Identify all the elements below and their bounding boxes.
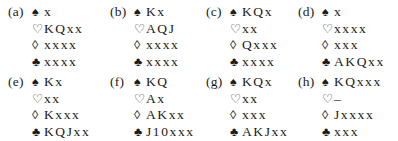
hearts-row: ♡ KQxx [8,21,83,38]
heart-icon: ♡ [134,92,146,108]
spades-row: (c) ♠ KQx [206,4,278,21]
heart-icon: ♡ [32,22,44,38]
diamond-icon: ◊ [322,108,334,124]
club-icon: ♣ [322,55,334,71]
hearts-holding: AQJ [146,21,176,37]
hand-e: (e) ♠ Kx ♡ xx ◊ Kxxx ♣ KQJxx [8,74,90,140]
spades-row: (e) ♠ Kx [8,74,90,91]
clubs-holding: KQJxx [44,124,90,140]
club-icon: ♣ [230,125,242,141]
diamonds-row: ◊ xxx [298,37,385,54]
hand-label: (b) [110,4,134,20]
club-icon: ♣ [32,125,44,141]
diamonds-row: ◊ Kxxx [8,107,90,124]
club-icon: ♣ [322,125,334,141]
diamonds-holding: Kxxx [44,107,80,123]
spades-row: (a) ♠ x [8,4,83,21]
spades-row: (h) ♠ KQxxx [298,74,382,91]
heart-icon: ♡ [32,92,44,108]
diamonds-holding: xxxx [146,37,179,53]
clubs-holding: xxxx [242,54,275,70]
spade-icon: ♠ [322,75,334,91]
hand-a: (a) ♠ x ♡ KQxx ◊ xxxx ♣ xxxx [8,4,83,70]
diamonds-row: ◊ xxxx [110,37,179,54]
club-icon: ♣ [230,55,242,71]
diamonds-holding: Qxxx [242,37,278,53]
diamond-icon: ◊ [134,108,146,124]
hand-d: (d) ♠ x ♡ xxxx ◊ xxx ♣ AKQxx [298,4,385,70]
clubs-holding: xxx [334,124,359,140]
clubs-holding: J10xxx [146,124,195,140]
clubs-row: ♣ AKQxx [298,54,385,71]
hearts-holding: xx [242,21,259,37]
spade-icon: ♠ [230,5,242,21]
clubs-row: ♣ KQJxx [8,124,90,141]
hearts-row: ♡ xxxx [298,21,385,38]
hand-label: (e) [8,74,32,90]
heart-icon: ♡ [230,22,242,38]
diamonds-holding: Jxxxx [334,107,374,123]
diamonds-holding: xxx [334,37,359,53]
clubs-row: ♣ xxxx [206,54,278,71]
spades-row: (f) ♠ KQ [110,74,195,91]
spades-holding: x [44,4,52,20]
spades-row: (d) ♠ x [298,4,385,21]
spade-icon: ♠ [32,5,44,21]
hand-label: (g) [206,74,230,90]
hearts-row: ♡ – [298,91,382,108]
hearts-row: ♡ AQJ [110,21,179,38]
hearts-holding: xx [44,91,61,107]
clubs-row: ♣ xxxx [110,54,179,71]
club-icon: ♣ [134,55,146,71]
diamonds-holding: AKxx [146,107,185,123]
diamond-icon: ◊ [230,38,242,54]
hand-label: (h) [298,74,322,90]
clubs-row: ♣ J10xxx [110,124,195,141]
hand-c: (c) ♠ KQx ♡ xx ◊ Qxxx ♣ xxxx [206,4,278,70]
hand-label: (d) [298,4,322,20]
clubs-holding: AKQxx [334,54,385,70]
hearts-row: ♡ xx [8,91,90,108]
spades-holding: Kx [146,4,166,20]
clubs-holding: xxxx [146,54,179,70]
diamonds-row: ◊ AKxx [110,107,195,124]
heart-icon: ♡ [134,22,146,38]
diamond-icon: ◊ [230,108,242,124]
clubs-row: ♣ xxxx [8,54,83,71]
spade-icon: ♠ [134,5,146,21]
diamond-icon: ◊ [32,108,44,124]
spades-holding: KQ [146,74,169,90]
spade-icon: ♠ [322,5,334,21]
spade-icon: ♠ [230,75,242,91]
hearts-holding: – [334,91,342,107]
heart-icon: ♡ [230,92,242,108]
diamonds-holding: xxxx [44,37,77,53]
spades-holding: x [334,4,342,20]
clubs-row: ♣ AKJxx [206,124,288,141]
spade-icon: ♠ [134,75,146,91]
clubs-row: ♣ xxx [298,124,382,141]
hand-f: (f) ♠ KQ ♡ Ax ◊ AKxx ♣ J10xxx [110,74,195,140]
hand-b: (b) ♠ Kx ♡ AQJ ◊ xxxx ♣ xxxx [110,4,179,70]
diamonds-holding: xxx [242,107,267,123]
hand-label: (c) [206,4,230,20]
spades-holding: KQx [242,74,273,90]
hearts-row: ♡ Ax [110,91,195,108]
club-icon: ♣ [134,125,146,141]
spade-icon: ♠ [32,75,44,91]
hearts-row: ♡ xx [206,21,278,38]
hearts-holding: Ax [146,91,166,107]
hand-h: (h) ♠ KQxxx ♡ – ◊ Jxxxx ♣ xxx [298,74,382,140]
hearts-holding: xxxx [334,21,367,37]
diamonds-row: ◊ Jxxxx [298,107,382,124]
club-icon: ♣ [32,55,44,71]
spades-holding: KQx [242,4,273,20]
heart-icon: ♡ [322,92,334,108]
diamonds-row: ◊ xxx [206,107,288,124]
diamond-icon: ◊ [322,38,334,54]
diamond-icon: ◊ [134,38,146,54]
heart-icon: ♡ [322,22,334,38]
hand-g: (g) ♠ KQx ♡ xx ◊ xxx ♣ AKJxx [206,74,288,140]
spades-holding: Kx [44,74,64,90]
spades-row: (g) ♠ KQx [206,74,288,91]
